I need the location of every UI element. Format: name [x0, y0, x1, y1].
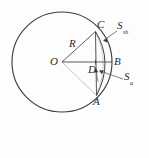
sector-area-subscript: a	[130, 80, 133, 86]
label-point-A: A	[93, 96, 100, 107]
label-radius-R: R	[69, 38, 76, 49]
leader-line-segment	[104, 31, 117, 40]
label-point-C: C	[97, 19, 104, 30]
radius-line-OC	[62, 32, 96, 63]
geometry-figure: O C A D B R Ssh Sa	[0, 0, 149, 158]
label-segment-area: Ssh	[117, 20, 128, 33]
label-sector-area: Sa	[124, 71, 133, 84]
label-point-O: O	[50, 56, 58, 67]
sector-area-base: S	[124, 70, 130, 82]
label-point-B: B	[114, 56, 121, 67]
segment-area-base: S	[117, 19, 123, 31]
label-point-D: D	[88, 64, 96, 75]
arc-CBA	[96, 32, 106, 96]
segment-area-subscript: sh	[123, 29, 128, 35]
